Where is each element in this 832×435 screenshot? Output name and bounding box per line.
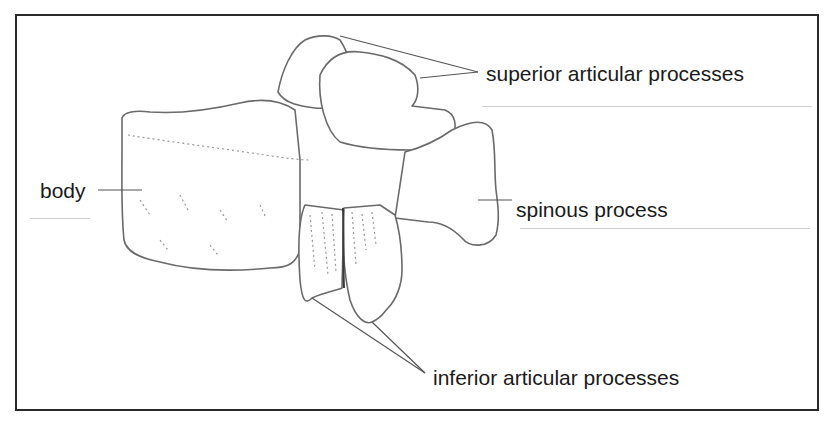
leader-superior-2 [420,72,478,78]
leader-inferior-2 [372,322,425,373]
inferior-process-right-shape [343,205,402,323]
label-inferior-articular-processes: inferior articular processes [433,367,679,388]
inferior-process-left-shape [299,205,344,301]
faint-scan-line [482,106,812,107]
faint-scan-line [520,228,810,229]
label-body: body [40,180,86,201]
faint-scan-line [30,218,90,219]
superior-process-right-shape [320,52,455,151]
label-spinous-process: spinous process [516,199,668,220]
vertebral-body-shape [122,100,300,270]
label-superior-articular-processes: superior articular processes [486,63,744,84]
